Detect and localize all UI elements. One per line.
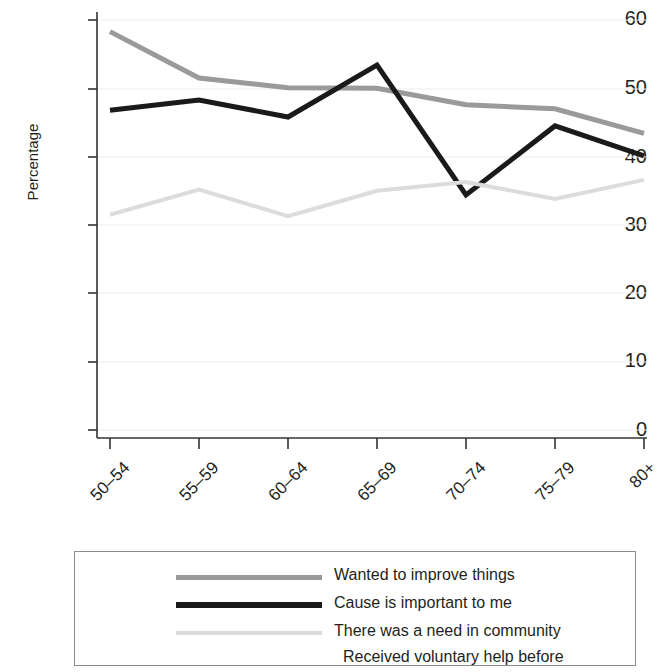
legend-swatch-wanted-to-improve-things xyxy=(176,575,322,580)
plot-area xyxy=(0,0,647,540)
legend-swatch-there-was-a-need-in-community xyxy=(176,631,322,635)
data-series-group xyxy=(110,32,644,217)
legend-label-3: Received voluntary help before xyxy=(343,648,564,666)
legend-swatch-cause-is-important-to-me xyxy=(176,602,322,608)
series-line-2 xyxy=(110,180,644,216)
legend-swatch-received-voluntary-help-before xyxy=(176,657,322,661)
gridlines xyxy=(97,20,647,430)
legend-label-0: Wanted to improve things xyxy=(334,566,515,584)
legend-item-2[interactable]: There was a need in community xyxy=(75,619,635,647)
legend-item-3[interactable]: Received voluntary help before xyxy=(75,645,635,672)
chart-legend: Wanted to improve things Cause is import… xyxy=(74,551,636,666)
legend-item-1[interactable]: Cause is important to me xyxy=(75,591,635,619)
legend-item-0[interactable]: Wanted to improve things xyxy=(75,563,635,591)
series-line-1 xyxy=(110,65,644,195)
legend-label-2: There was a need in community xyxy=(334,622,561,640)
legend-label-1: Cause is important to me xyxy=(334,594,512,612)
series-line-0 xyxy=(110,32,644,134)
axis-lines xyxy=(88,12,647,449)
